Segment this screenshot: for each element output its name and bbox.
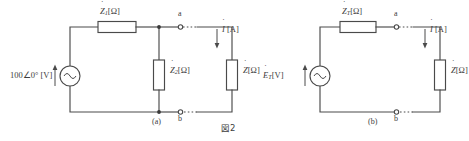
current-b-unit: [A]	[435, 24, 447, 34]
node-dot-a-bottom	[157, 110, 161, 114]
source-b-arrow-head	[303, 65, 308, 71]
terminal-b-b-label: b	[394, 115, 398, 123]
current-a-symbol: I	[222, 24, 225, 34]
impedance-z1-box	[98, 22, 136, 33]
impedance-zload-b-label: Z[Ω]	[451, 66, 468, 75]
impedance-zload-b-box	[435, 60, 446, 90]
impedance-zt-unit: [Ω]	[350, 6, 362, 16]
circuit-diagram-svg	[0, 0, 469, 141]
terminal-a-label: a	[178, 10, 182, 18]
terminal-b-circuit-a-open-circle[interactable]	[394, 25, 398, 29]
current-b-label: I [A]	[430, 25, 447, 34]
current-b-symbol: I	[430, 24, 433, 34]
circuit-b-sublabel: (b)	[368, 118, 377, 126]
impedance-zload-a-box	[227, 60, 238, 90]
impedance-zload-a-unit: [Ω]	[248, 65, 260, 75]
impedance-z1-symbol: Z	[100, 6, 105, 16]
circuit-a-group	[53, 22, 238, 115]
wire-b-terminal-b-to-source	[320, 86, 394, 112]
node-dot-a-top	[157, 25, 161, 29]
impedance-zload-b-symbol: Z	[451, 65, 456, 75]
circuit-b-group	[303, 22, 446, 115]
source-a-label: 100∠0° [V]	[10, 71, 52, 80]
circuit-a-sublabel: (a)	[152, 118, 161, 126]
impedance-z2-symbol: Z	[170, 65, 175, 75]
current-a-label: I [A]	[222, 25, 239, 34]
impedance-zt-box	[340, 22, 376, 33]
terminal-b-label: b	[178, 115, 182, 123]
terminal-a-open-circle[interactable]	[178, 25, 182, 29]
impedance-z2-box	[154, 60, 165, 90]
impedance-z2-unit: [Ω]	[178, 65, 190, 75]
impedance-zload-a-symbol: Z	[243, 65, 248, 75]
source-b-symbol: E	[263, 70, 268, 80]
current-a-unit: [A]	[227, 24, 239, 34]
impedance-z2-label: Z2[Ω]	[170, 66, 190, 75]
figure-caption: 図2	[221, 124, 235, 133]
wire-a-load-to-bottom	[197, 90, 232, 112]
wire-b-source-to-zt	[320, 27, 340, 66]
figure-container: 100∠0° [V] Z1[Ω] Z2[Ω] Z[Ω] I [A] a b (a…	[0, 0, 469, 141]
source-b-unit: [V]	[272, 70, 284, 80]
wire-b-load-to-bottom	[413, 90, 440, 112]
source-b-label: ET[V]	[263, 71, 283, 80]
source-a-unit: [V]	[41, 70, 53, 80]
source-a-arrow-head	[53, 65, 58, 71]
impedance-zload-a-label: Z[Ω]	[243, 66, 260, 75]
wire-a-source-to-z1	[70, 27, 98, 66]
source-a-value: 100∠0°	[10, 70, 38, 80]
impedance-z1-label: Z1[Ω]	[100, 7, 120, 16]
wire-a-node-to-source-bottom	[70, 86, 159, 112]
terminal-a-b-label: a	[394, 10, 398, 18]
impedance-zt-label: ZT[Ω]	[342, 7, 362, 16]
impedance-z1-unit: [Ω]	[108, 6, 120, 16]
current-b-arrow-head	[423, 43, 428, 49]
impedance-zt-symbol: Z	[342, 6, 347, 16]
current-a-arrow-head	[215, 43, 220, 49]
impedance-zload-b-unit: [Ω]	[456, 65, 468, 75]
